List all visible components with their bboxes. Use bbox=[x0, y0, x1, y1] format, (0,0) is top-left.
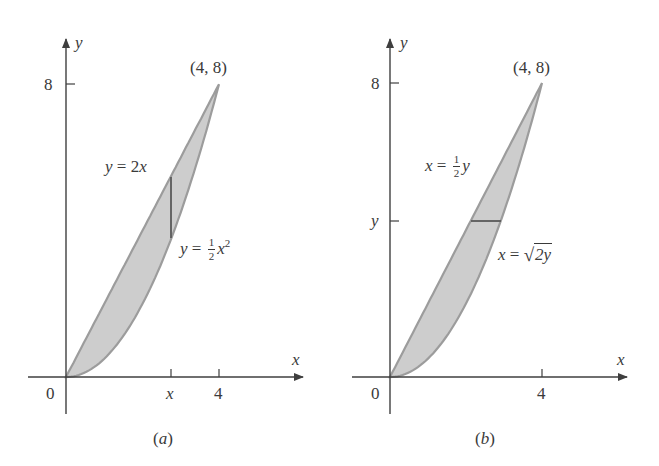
radicand: 2y bbox=[534, 243, 552, 264]
panel-a-y-axis-label: y bbox=[75, 34, 83, 51]
equals-sign: = bbox=[192, 239, 202, 258]
panel-b-origin-label: 0 bbox=[371, 385, 380, 402]
square-root: √2y bbox=[524, 244, 552, 263]
lower-var: x bbox=[217, 239, 225, 258]
upper-coef: 2 bbox=[131, 157, 140, 176]
upper-var: x bbox=[139, 157, 147, 176]
exponent: 2 bbox=[225, 237, 231, 249]
equals-sign: = bbox=[117, 157, 127, 176]
caption-letter: b bbox=[481, 429, 490, 448]
panel-b-graph bbox=[352, 39, 627, 414]
panel-a-graph bbox=[28, 39, 303, 414]
frac-den: 2 bbox=[454, 167, 460, 179]
fraction-one-half: 12 bbox=[208, 237, 216, 262]
left-var: y bbox=[462, 156, 470, 175]
panel-b-y-tick-label-8: 8 bbox=[371, 75, 380, 92]
frac-den: 2 bbox=[209, 250, 215, 262]
panel-a-caption: (a) bbox=[153, 430, 173, 447]
panel-a-origin-label: 0 bbox=[46, 385, 55, 402]
panel-b-left-curve-label: x = 12y bbox=[425, 155, 470, 180]
left-lhs: x bbox=[425, 156, 433, 175]
frac-num: 1 bbox=[208, 237, 216, 250]
panel-b-shaded-region bbox=[390, 83, 542, 377]
panel-a-point-label: (4, 8) bbox=[190, 59, 227, 76]
panel-b-caption: (b) bbox=[475, 430, 495, 447]
radical-sign: √ bbox=[524, 244, 534, 265]
panel-b-y-axis-label: y bbox=[400, 34, 408, 51]
panel-a-x-tick-label-x: x bbox=[166, 385, 174, 402]
panel-b-right-curve-label: x = √2y bbox=[498, 244, 552, 263]
right-lhs: x bbox=[498, 245, 506, 264]
panel-b-x-tick-label-4: 4 bbox=[537, 385, 546, 402]
upper-lhs: y bbox=[105, 157, 113, 176]
panel-a-shaded-region bbox=[66, 84, 219, 377]
panel-a-y-tick-label-8: 8 bbox=[44, 76, 53, 93]
equals-sign: = bbox=[437, 156, 447, 175]
panel-a-lower-curve-label: y = 12x2 bbox=[180, 238, 230, 263]
diagram-canvas bbox=[0, 0, 659, 466]
panel-b-x-axis-label: x bbox=[617, 351, 625, 368]
panel-b-y-tick-label-y: y bbox=[371, 212, 379, 229]
frac-num: 1 bbox=[453, 154, 461, 167]
lower-lhs: y bbox=[180, 239, 188, 258]
panel-a-x-tick-label-4: 4 bbox=[214, 385, 223, 402]
fraction-one-half: 12 bbox=[453, 154, 461, 179]
panel-a-x-axis-label: x bbox=[292, 351, 300, 368]
caption-letter: a bbox=[159, 429, 168, 448]
panel-b-point-label: (4, 8) bbox=[513, 59, 550, 76]
equals-sign: = bbox=[510, 245, 520, 264]
panel-a-upper-curve-label: y = 2x bbox=[105, 158, 147, 175]
